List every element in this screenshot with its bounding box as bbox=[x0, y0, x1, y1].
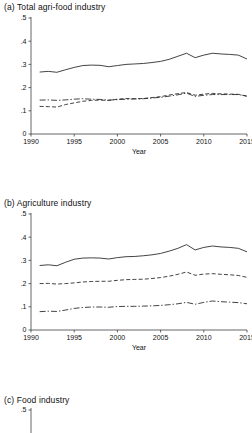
panel-b-svg: 0.1.2.3.4.5199019952000200520102015YearG… bbox=[0, 210, 252, 350]
y-tick-label: .1 bbox=[21, 107, 27, 114]
x-tick-label: 1995 bbox=[66, 334, 82, 341]
x-tick-label: 2015 bbox=[239, 138, 252, 145]
y-tick-label: .5 bbox=[21, 210, 27, 217]
x-axis-label: Year bbox=[132, 344, 147, 351]
panel-c-svg: .5 bbox=[0, 405, 252, 433]
y-tick-label: .4 bbox=[21, 234, 27, 241]
series-gvc-backward bbox=[40, 272, 247, 284]
x-tick-label: 2005 bbox=[153, 138, 169, 145]
series-gvc-forward bbox=[40, 93, 247, 100]
series-gvc bbox=[40, 245, 247, 266]
y-tick-label: 0 bbox=[23, 130, 27, 137]
y-tick-label: .2 bbox=[21, 280, 27, 287]
panel-c-title: (c) Food industry bbox=[4, 395, 69, 405]
x-tick-label: 2000 bbox=[110, 334, 126, 341]
panel-total-agri-food: (a) Total agri-food industry 0.1.2.3.4.5… bbox=[0, 0, 252, 196]
x-tick-label: 2010 bbox=[196, 334, 212, 341]
y-tick-label: .1 bbox=[21, 303, 27, 310]
panel-b-plot: 0.1.2.3.4.5199019952000200520102015YearG… bbox=[0, 210, 252, 350]
y-tick-label: .2 bbox=[21, 84, 27, 91]
series-gvc bbox=[40, 53, 247, 72]
y-tick-label: 0 bbox=[23, 326, 27, 333]
x-tick-label: 1990 bbox=[23, 138, 39, 145]
panel-c-plot: .5 bbox=[0, 405, 252, 433]
x-tick-label: 2015 bbox=[239, 334, 252, 341]
y-tick-label: .3 bbox=[21, 257, 27, 264]
x-tick-label: 1990 bbox=[23, 334, 39, 341]
panel-a-title: (a) Total agri-food industry bbox=[4, 2, 105, 12]
x-tick-label: 2000 bbox=[110, 138, 126, 145]
y-tick-label: .5 bbox=[21, 14, 27, 21]
x-tick-label: 2010 bbox=[196, 138, 212, 145]
x-axis-label: Year bbox=[132, 148, 147, 155]
y-tick-label: .3 bbox=[21, 61, 27, 68]
panel-b-title: (b) Agriculture industry bbox=[4, 198, 91, 208]
panel-a-svg: 0.1.2.3.4.5199019952000200520102015YearG… bbox=[0, 14, 252, 154]
panel-food: (c) Food industry .5 bbox=[0, 393, 252, 433]
panel-agriculture: (b) Agriculture industry 0.1.2.3.4.51990… bbox=[0, 196, 252, 393]
x-tick-label: 1995 bbox=[66, 138, 82, 145]
y-tick-label: .5 bbox=[21, 406, 27, 413]
x-tick-label: 2005 bbox=[153, 334, 169, 341]
series-gvc-forward bbox=[40, 301, 247, 312]
figure-page: (a) Total agri-food industry 0.1.2.3.4.5… bbox=[0, 0, 252, 433]
panel-a-plot: 0.1.2.3.4.5199019952000200520102015YearG… bbox=[0, 14, 252, 154]
y-tick-label: .4 bbox=[21, 38, 27, 45]
